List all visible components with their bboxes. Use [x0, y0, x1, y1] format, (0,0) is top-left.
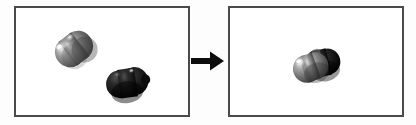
arrow-right-icon — [191, 52, 224, 71]
before-panel-scene — [16, 8, 188, 115]
after-panel — [228, 6, 404, 117]
figure-container: Two separate blob objects merge into a s… — [0, 0, 416, 125]
dark-blob — [102, 60, 154, 106]
before-panel — [14, 6, 190, 117]
after-panel-scene — [230, 8, 402, 115]
light-gray-blob — [48, 24, 100, 74]
transition-arrow — [190, 48, 226, 74]
merged-blob-group — [288, 40, 344, 90]
